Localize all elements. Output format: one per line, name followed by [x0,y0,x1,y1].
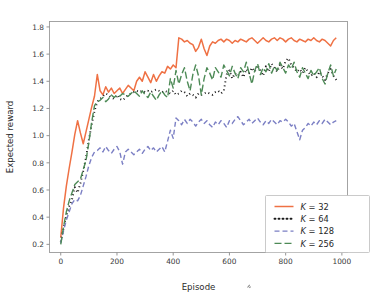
y-tick-label: 0.4 [32,213,44,222]
y-tick-label: 1.4 [32,77,44,86]
y-tick-label: 1.8 [32,23,44,32]
x-tick-label: 400 [166,257,180,266]
chart-legend: K = 32K = 64K = 128K = 256 [266,196,370,253]
x-tick-label: 800 [279,257,293,266]
chart-canvas: 0.20.40.60.81.01.21.41.61.80200400600800… [0,0,374,299]
x-axis-title: Episode [182,282,216,292]
x-tick-label: 200 [110,257,124,266]
figure-container: 0.20.40.60.81.01.21.41.61.80200400600800… [0,0,374,299]
y-tick-label: 0.6 [32,186,44,195]
y-tick-label: 0.8 [32,159,44,168]
x-tick-label: 0 [58,257,63,266]
y-tick-label: 0.2 [32,240,44,249]
stray-mark-group [248,285,251,288]
stray-pen-mark-icon [248,285,251,288]
legend-label-k-32[interactable]: K = 32 [301,202,329,212]
x-tick-label: 1000 [332,257,351,266]
y-tick-label: 1.6 [32,50,44,59]
legend-label-k-256[interactable]: K = 256 [301,239,335,249]
legend-label-k-64[interactable]: K = 64 [301,214,329,224]
y-axis-title: Expected reward [5,101,15,174]
y-tick-label: 1.2 [32,104,44,113]
x-tick-label: 600 [222,257,236,266]
legend-label-k-128[interactable]: K = 128 [301,226,335,236]
y-tick-label: 1.0 [32,131,44,140]
